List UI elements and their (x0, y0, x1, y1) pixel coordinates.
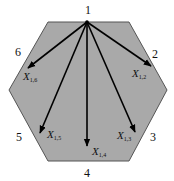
origin-point (85, 20, 89, 24)
vertex-label-1: 1 (85, 3, 91, 17)
vertex-label-4: 4 (84, 166, 90, 180)
vertex-label-2: 2 (152, 47, 158, 61)
hexagon-shape (9, 22, 167, 161)
hexagon-diagram: X1,2X1,3X1,4X1,5X1,6 123456 (0, 0, 174, 181)
vertex-label-5: 5 (16, 130, 22, 144)
vertex-label-3: 3 (150, 130, 156, 144)
vertex-label-6: 6 (15, 45, 21, 59)
